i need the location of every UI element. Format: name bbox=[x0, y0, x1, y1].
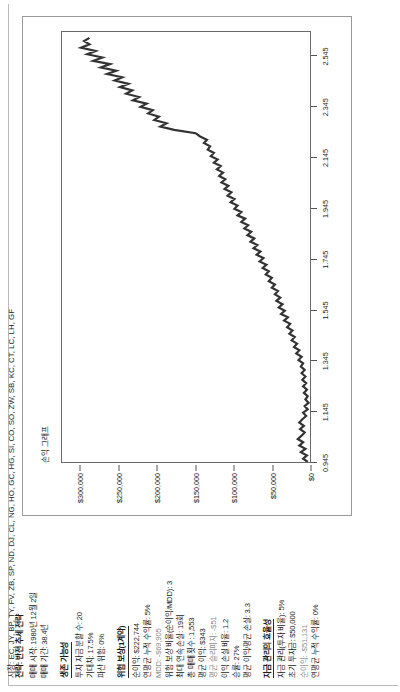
strategy-title: 전략: 반전 추세 전략 bbox=[14, 528, 25, 678]
stat-row: 평균 이익: $343 bbox=[197, 528, 208, 678]
trade-start-line: 매매 시작: 1980년 12월 2일 bbox=[28, 528, 39, 678]
y-axis-label: $200,000 bbox=[153, 473, 162, 503]
chart-y-axis: $0$50,000$100,000$150,000$200,000$250,00… bbox=[61, 465, 311, 515]
y-axis-label: $0 bbox=[307, 473, 316, 481]
stat-row: 승률: 27% bbox=[231, 528, 242, 678]
stat-row: 자금 관리(투자 비율): 5% bbox=[276, 528, 287, 678]
x-axis-label: 1.745 bbox=[321, 251, 330, 269]
stat-row: 기대치: 17.5% bbox=[85, 528, 96, 678]
x-axis-tick bbox=[311, 55, 317, 56]
x-axis-tick bbox=[311, 106, 317, 107]
report-sheet: 시장: EC, JY, BP, TY, FV, ZB, SP, ND, DJ, … bbox=[0, 0, 400, 692]
sections-container: 생존 가능성투자 자금 분할 수: 20기대치: 17.5%파산 위험: 0%위… bbox=[59, 528, 320, 678]
y-axis-tick bbox=[157, 465, 158, 471]
stat-section-heading: 생존 가능성 bbox=[59, 642, 72, 678]
y-axis-label: $50,000 bbox=[268, 473, 277, 499]
stat-row: 총 매매 횟수: 1,553 bbox=[186, 528, 197, 678]
stat-row: 파산 위험: 0% bbox=[96, 528, 107, 678]
stat-section: 위험 보상(1계약)순이익: $222,744연평균 누적 수익률: 5%MDD… bbox=[116, 528, 253, 678]
stat-section-heading: 위험 보상(1계약) bbox=[116, 626, 129, 678]
y-axis-tick bbox=[118, 465, 119, 471]
stat-section: 생존 가능성투자 자금 분할 수: 20기대치: 17.5%파산 위험: 0% bbox=[59, 528, 107, 678]
equity-curve-line bbox=[62, 32, 310, 462]
x-axis-tick bbox=[311, 411, 317, 412]
page-frame: 시장: EC, JY, BP, TY, FV, ZB, SP, ND, DJ, … bbox=[0, 0, 400, 692]
x-axis-tick bbox=[311, 360, 317, 361]
y-axis-tick bbox=[272, 465, 273, 471]
chart-title: 손익 그래프 bbox=[39, 426, 50, 463]
x-axis-label: 2.545 bbox=[321, 47, 330, 65]
x-axis-label: 1.545 bbox=[321, 302, 330, 320]
x-axis-label: 2.145 bbox=[321, 149, 330, 167]
x-axis-label: 1.345 bbox=[321, 352, 330, 370]
y-axis-label: $250,000 bbox=[114, 473, 123, 503]
series-path bbox=[81, 38, 308, 462]
y-axis-tick bbox=[311, 465, 312, 471]
y-axis-tick bbox=[195, 465, 196, 471]
chart-plot-area bbox=[61, 31, 311, 463]
stat-row: 위험 보상 비율(순이익/MDD): 3 bbox=[164, 528, 175, 678]
x-axis-label: 1.945 bbox=[321, 200, 330, 218]
y-axis-label: $300,000 bbox=[76, 473, 85, 503]
x-axis-tick bbox=[311, 310, 317, 311]
statistics-column: 전략: 반전 추세 전략 매매 시작: 1980년 12월 2일 매매 기간: … bbox=[14, 528, 321, 678]
stat-row: 평균 슬리피지: -$51 bbox=[208, 528, 219, 678]
stat-row: 순이익: -$51,131 bbox=[299, 528, 310, 678]
trade-period-line: 매매 기간: 38.4년 bbox=[39, 528, 50, 678]
y-axis-tick bbox=[80, 465, 81, 471]
stat-section: 자금 관리의 효율성자금 관리(투자 비율): 5%초기 투자금: $50,00… bbox=[262, 528, 321, 678]
stat-row: 순이익: $222,744 bbox=[131, 528, 142, 678]
stat-row: MDD: -$69,905 bbox=[153, 528, 164, 678]
y-axis-label: $100,000 bbox=[230, 473, 239, 503]
stat-row: 평균 이익/평균 손실: 3.3 bbox=[242, 528, 253, 678]
stat-row: 최대 연속 손실: 19회 bbox=[175, 528, 186, 678]
stat-row: 투자 자금 분할 수: 20 bbox=[74, 528, 85, 678]
stat-row: 초기 투자금: $50,000 bbox=[287, 528, 298, 678]
x-axis-label: 1.145 bbox=[321, 403, 330, 421]
x-axis-label: 2.345 bbox=[321, 98, 330, 116]
x-axis-label: 0.945 bbox=[321, 454, 330, 472]
x-axis-tick bbox=[311, 208, 317, 209]
y-axis-label: $150,000 bbox=[191, 473, 200, 503]
stat-row: 연평균 누적 수익률: 0% bbox=[310, 528, 321, 678]
x-axis-tick bbox=[311, 259, 317, 260]
stat-row: 이익 손실 비율: 1.2 bbox=[220, 528, 231, 678]
equity-chart-panel: 손익 그래프 $0$50,000$100,000$150,000$200,000… bbox=[22, 16, 352, 516]
x-axis-tick bbox=[311, 462, 317, 463]
stat-row: 연평균 누적 수익률: 5% bbox=[142, 528, 153, 678]
x-axis-tick bbox=[311, 157, 317, 158]
chart-x-axis: 0.9451.1451.3451.5451.7451.9452.1452.345… bbox=[311, 31, 351, 463]
y-axis-tick bbox=[234, 465, 235, 471]
stat-section-heading: 자금 관리의 효율성 bbox=[262, 619, 275, 678]
